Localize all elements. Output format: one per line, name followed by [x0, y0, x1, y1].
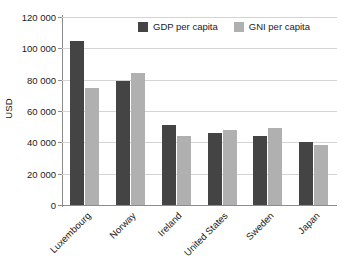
y-tick-mark: [58, 80, 62, 81]
y-axis-title: USD: [3, 87, 14, 131]
legend-item-gni: GNI per capita: [234, 21, 310, 32]
legend-label-gdp: GDP per capita: [153, 21, 218, 32]
gridline: [62, 111, 337, 112]
plot-area: 120 000100 00080 00060 00040 00020 0000: [62, 17, 337, 205]
legend-swatch-gni: [234, 22, 244, 32]
y-tick-mark: [58, 111, 62, 112]
legend-label-gni: GNI per capita: [249, 21, 310, 32]
gridline: [62, 142, 337, 143]
bar: [253, 136, 267, 205]
bar: [177, 136, 191, 205]
y-tick-label: 100 000: [22, 43, 56, 54]
bar: [162, 125, 176, 205]
y-tick-label: 20 000: [27, 168, 56, 179]
chart-legend: GDP per capita GNI per capita: [138, 21, 310, 32]
bar-chart: USD 120 000100 00080 00060 00040 00020 0…: [0, 0, 344, 272]
legend-swatch-gdp: [138, 22, 148, 32]
bar: [70, 41, 84, 206]
gridline: [62, 174, 337, 175]
gridline: [62, 48, 337, 49]
gridline: [62, 17, 337, 18]
bar: [314, 145, 328, 205]
y-tick-label: 40 000: [27, 137, 56, 148]
y-tick-mark: [58, 142, 62, 143]
bar: [223, 130, 237, 205]
x-axis-line: [62, 205, 337, 206]
bar: [268, 128, 282, 205]
y-tick-label: 120 000: [22, 12, 56, 23]
y-tick-mark: [58, 17, 62, 18]
bar: [299, 142, 313, 205]
gridline: [62, 80, 337, 81]
y-tick-mark: [58, 174, 62, 175]
y-tick-label: 80 000: [27, 74, 56, 85]
y-tick-label: 60 000: [27, 106, 56, 117]
y-tick-mark: [58, 48, 62, 49]
y-tick-mark: [58, 205, 62, 206]
bar: [116, 81, 130, 205]
bar: [85, 88, 99, 205]
y-tick-label: 0: [51, 200, 56, 211]
legend-item-gdp: GDP per capita: [138, 21, 218, 32]
bar: [208, 133, 222, 205]
bar: [131, 73, 145, 205]
